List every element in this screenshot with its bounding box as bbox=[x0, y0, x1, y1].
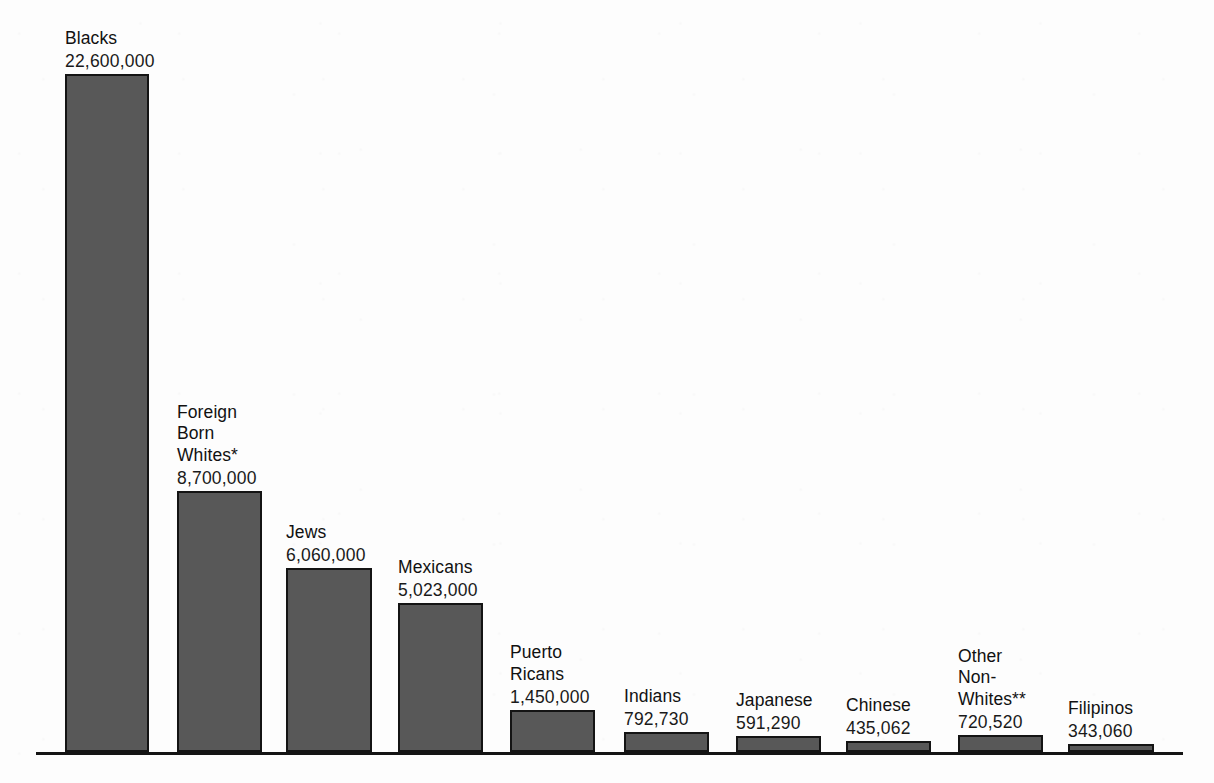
bar-rect bbox=[65, 74, 149, 752]
bar-group: PuertoRicans1,450,000 bbox=[510, 710, 595, 752]
bar-category-label: Born bbox=[177, 423, 257, 445]
bar-group: Blacks22,600,000 bbox=[65, 74, 149, 752]
bar-value-label: 435,062 bbox=[846, 716, 911, 741]
bar-group: Jews6,060,000 bbox=[286, 568, 372, 752]
bar-category-label: Whites** bbox=[958, 689, 1026, 711]
bar-rect bbox=[624, 732, 709, 752]
bar-category-label: Non- bbox=[958, 667, 1026, 689]
bar-value-label: 5,023,000 bbox=[398, 578, 478, 603]
bar-group: ForeignBornWhites*8,700,000 bbox=[177, 491, 262, 752]
bar-category-label: Other bbox=[958, 646, 1026, 668]
bar-group: Mexicans5,023,000 bbox=[398, 603, 483, 752]
bar-label-block: Filipinos343,060 bbox=[1068, 698, 1133, 745]
bar-label-block: Jews6,060,000 bbox=[286, 522, 366, 569]
bar-value-label: 792,730 bbox=[624, 707, 689, 732]
axis-baseline bbox=[36, 752, 1183, 755]
bar-label-block: Blacks22,600,000 bbox=[65, 28, 155, 75]
bar-group: Japanese591,290 bbox=[736, 736, 821, 752]
bar-category-label: Chinese bbox=[846, 695, 911, 717]
bar-rect bbox=[286, 568, 372, 752]
bar-rect bbox=[177, 491, 262, 752]
bar-category-label: Blacks bbox=[65, 28, 155, 50]
bar-value-label: 720,520 bbox=[958, 710, 1026, 735]
bar-group: Filipinos343,060 bbox=[1068, 744, 1154, 752]
bar-category-label: Puerto bbox=[510, 642, 590, 664]
bar-group: OtherNon-Whites**720,520 bbox=[958, 735, 1043, 752]
bar-rect bbox=[1068, 744, 1154, 752]
bar-label-block: Chinese435,062 bbox=[846, 695, 911, 742]
bar-value-label: 1,450,000 bbox=[510, 685, 590, 710]
bar-value-label: 22,600,000 bbox=[65, 49, 155, 74]
bar-category-label: Ricans bbox=[510, 664, 590, 686]
bar-group: Indians792,730 bbox=[624, 732, 709, 752]
bar-category-label: Indians bbox=[624, 686, 689, 708]
bar-category-label: Foreign bbox=[177, 402, 257, 424]
bar-rect bbox=[846, 741, 931, 752]
bar-label-block: OtherNon-Whites**720,520 bbox=[958, 646, 1026, 736]
bar-category-label: Mexicans bbox=[398, 557, 478, 579]
bar-category-label: Filipinos bbox=[1068, 698, 1133, 720]
bar-group: Chinese435,062 bbox=[846, 741, 931, 752]
bar-label-block: Mexicans5,023,000 bbox=[398, 557, 478, 604]
bar-category-label: Jews bbox=[286, 522, 366, 544]
bar-value-label: 8,700,000 bbox=[177, 466, 257, 491]
bar-label-block: Indians792,730 bbox=[624, 686, 689, 733]
bar-value-label: 6,060,000 bbox=[286, 543, 366, 568]
bar-value-label: 343,060 bbox=[1068, 719, 1133, 744]
bar-label-block: Japanese591,290 bbox=[736, 690, 813, 737]
bar-rect bbox=[398, 603, 483, 752]
bar-category-label: Whites* bbox=[177, 445, 257, 467]
bar-chart: Blacks22,600,000ForeignBornWhites*8,700,… bbox=[0, 0, 1214, 783]
bar-category-label: Japanese bbox=[736, 690, 813, 712]
bar-value-label: 591,290 bbox=[736, 711, 813, 736]
bar-label-block: ForeignBornWhites*8,700,000 bbox=[177, 402, 257, 492]
bar-label-block: PuertoRicans1,450,000 bbox=[510, 642, 590, 710]
bar-rect bbox=[958, 735, 1043, 752]
bar-rect bbox=[736, 736, 821, 752]
bar-rect bbox=[510, 710, 595, 752]
